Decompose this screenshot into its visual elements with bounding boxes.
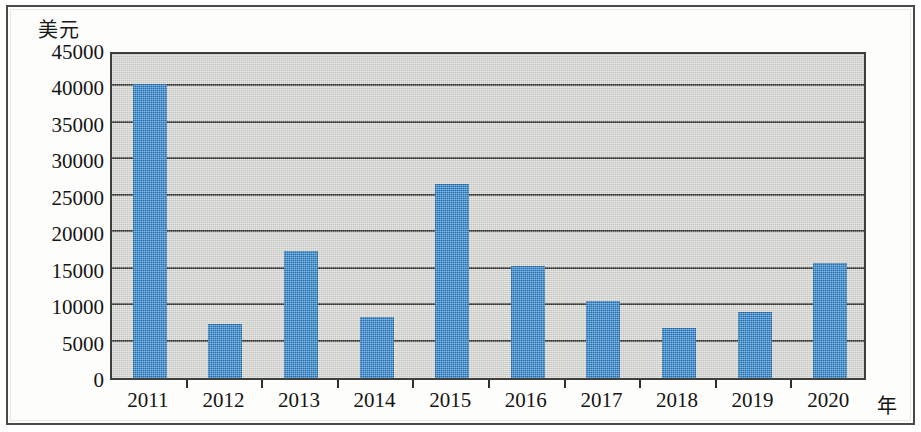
x-axis-tick-label: 2020 [807, 388, 849, 413]
x-axis-tick [261, 380, 263, 388]
plot-area [110, 52, 866, 380]
y-axis-tick-label: 15000 [12, 258, 104, 283]
bar [435, 184, 469, 378]
x-axis-tick [186, 380, 188, 388]
y-axis-tick-label: 20000 [12, 222, 104, 247]
x-axis-tick [488, 380, 490, 388]
bar [284, 251, 318, 378]
chart-figure: 美元 0500010000150002000025000300003500040… [0, 0, 921, 432]
x-axis-tick-label: 2011 [127, 388, 168, 413]
y-axis: 0500010000150002000025000300003500040000… [8, 52, 104, 380]
y-axis-tick-label: 40000 [12, 76, 104, 101]
bar [738, 312, 772, 378]
x-axis-tick [337, 380, 339, 388]
bar [208, 324, 242, 378]
y-axis-tick-label: 35000 [12, 112, 104, 137]
bar [511, 266, 545, 378]
y-axis-tick-label: 30000 [12, 149, 104, 174]
x-axis-tick-label: 2017 [580, 388, 622, 413]
x-axis-tick [639, 380, 641, 388]
x-axis-unit-label: 年 [877, 390, 897, 419]
x-axis-tick-label: 2015 [429, 388, 471, 413]
x-axis-tick-label: 2016 [505, 388, 547, 413]
y-axis-tick-label: 5000 [12, 331, 104, 356]
x-axis-tick [715, 380, 717, 388]
x-axis-tick-label: 2012 [202, 388, 244, 413]
x-axis-tick-label: 2019 [732, 388, 774, 413]
bar [662, 328, 696, 378]
y-axis-tick-label: 10000 [12, 295, 104, 320]
x-axis-labels: 2011201220132014201520162017201820192020 [110, 388, 866, 422]
x-axis-tick-label: 2013 [278, 388, 320, 413]
y-axis-tick-label: 45000 [12, 40, 104, 65]
x-axis-tick-label: 2018 [656, 388, 698, 413]
bar [813, 263, 847, 378]
y-axis-tick-label: 0 [12, 368, 104, 393]
x-axis-tick [412, 380, 414, 388]
x-axis-tick [790, 380, 792, 388]
bar [133, 84, 167, 378]
bar-series [112, 54, 864, 378]
x-axis-tick-label: 2014 [354, 388, 396, 413]
bar [586, 301, 620, 378]
y-axis-tick-label: 25000 [12, 185, 104, 210]
x-axis-tick [564, 380, 566, 388]
bar [360, 317, 394, 378]
